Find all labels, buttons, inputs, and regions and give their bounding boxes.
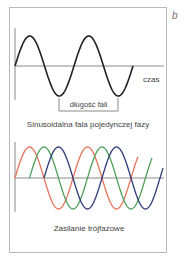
diagram-canvas: czas długość fali Sinusoidalna fala poje…	[0, 0, 193, 260]
wavelength-label: długość fali	[70, 100, 108, 109]
three-phase-caption: Zasilanie trójfazowe	[54, 224, 125, 233]
single-phase-diagram: czas długość fali Sinusoidalna fala poje…	[15, 28, 164, 129]
three-phase-diagram: Zasilanie trójfazowe	[15, 142, 164, 233]
single-phase-caption: Sinusoidalna fala pojedynczej fazy	[27, 120, 149, 129]
time-axis-label: czas	[143, 75, 159, 84]
